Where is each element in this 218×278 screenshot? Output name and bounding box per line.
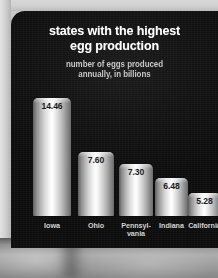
background-top-band — [0, 0, 218, 11]
bar-value-indiana: 6.48 — [163, 181, 179, 191]
bar-value-california: 5.28 — [196, 196, 212, 206]
bar-group-ohio: 7.60 Ohio — [78, 152, 114, 216]
background-left-band — [0, 0, 11, 248]
bar-value-iowa: 14.46 — [41, 101, 62, 111]
bar-label-pennsylvania: Pennsyl- vania — [121, 222, 151, 239]
bar-group-iowa: 14.46 Iowa — [33, 98, 71, 216]
bar-value-ohio: 7.60 — [88, 155, 104, 165]
bar-group-indiana: 6.48 Indiana — [155, 178, 188, 216]
chart-panel: states with the highest egg production n… — [11, 11, 218, 248]
bar-group-california: 5.28 California — [188, 193, 218, 216]
bar-label-california: California — [188, 222, 218, 230]
bar-value-pennsylvania: 7.30 — [128, 167, 144, 177]
plot-area: 14.46 Iowa 7.60 Ohio 7.30 Pennsyl- vania… — [11, 11, 218, 248]
bar-iowa[interactable] — [33, 98, 71, 216]
bar-label-ohio: Ohio — [88, 222, 104, 230]
bar-label-indiana: Indiana — [159, 222, 184, 230]
bar-label-iowa: Iowa — [44, 222, 60, 230]
bar-group-pennsylvania: 7.30 Pennsyl- vania — [119, 164, 153, 216]
